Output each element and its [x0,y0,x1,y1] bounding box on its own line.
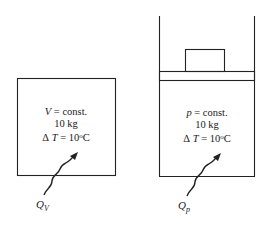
right-mass-label: 10 kg [171,119,243,131]
right-constraint-label: p = const. [171,107,243,119]
left-mass-label: 10 kg [30,118,102,130]
piston [160,72,255,81]
left-constraint-label: V = const. [30,106,102,118]
heat-label-qv: QV [36,198,49,215]
weight-block [186,50,225,72]
right-dt-label: Δ T = 10oC [167,131,247,145]
heat-label-qp: Qp [178,199,190,216]
left-dt-label: Δ T = 10oC [26,130,106,144]
